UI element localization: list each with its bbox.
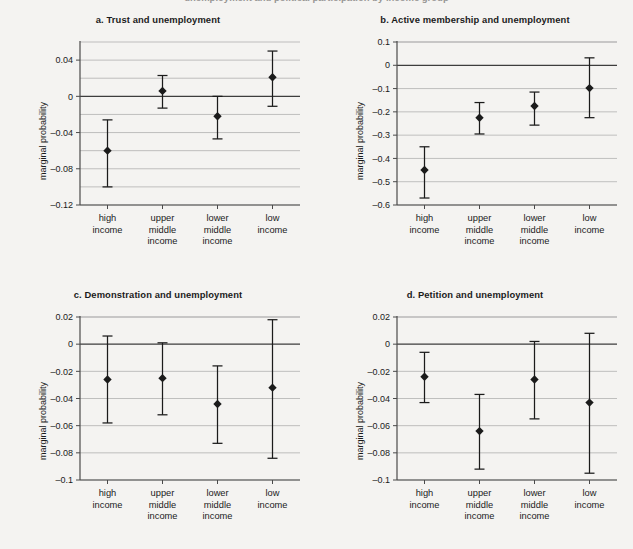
x-category-label: income bbox=[465, 511, 495, 521]
x-category-label: middle bbox=[521, 500, 548, 510]
data-point-group bbox=[213, 366, 223, 443]
data-marker-diamond bbox=[103, 146, 111, 154]
x-category-label: middle bbox=[521, 225, 548, 235]
y-tick-label: 0.04 bbox=[55, 55, 73, 65]
y-tick-label: –0.6 bbox=[372, 200, 390, 210]
x-category-label: income bbox=[203, 236, 233, 246]
x-category-label: income bbox=[410, 225, 440, 235]
y-tick-label: –0.4 bbox=[372, 154, 390, 164]
y-tick-label: 0 bbox=[385, 339, 390, 349]
data-marker-diamond bbox=[420, 373, 428, 381]
y-tick-label: –0.04 bbox=[50, 128, 73, 138]
y-tick-label: –0.02 bbox=[50, 367, 73, 377]
data-marker-diamond bbox=[158, 374, 166, 382]
data-point-group bbox=[268, 320, 278, 459]
panel-b: b. Active membership and unemployment ma… bbox=[317, 0, 633, 274]
data-marker-diamond bbox=[530, 102, 538, 110]
figure-root: unemployment and political participation… bbox=[0, 0, 633, 549]
data-point-group bbox=[475, 103, 485, 134]
x-category-label: low bbox=[583, 488, 597, 498]
y-tick-label: –0.02 bbox=[367, 367, 390, 377]
data-point-group bbox=[103, 120, 113, 187]
data-point-group bbox=[420, 147, 430, 198]
x-category-label: low bbox=[266, 213, 280, 223]
y-tick-label: –0.08 bbox=[50, 164, 73, 174]
x-category-label: income bbox=[465, 236, 495, 246]
x-category-label: income bbox=[258, 225, 288, 235]
x-category-label: low bbox=[266, 488, 280, 498]
x-category-label: income bbox=[520, 511, 550, 521]
y-tick-label: 0 bbox=[68, 339, 73, 349]
y-tick-label: 0.1 bbox=[377, 37, 390, 47]
x-category-label: income bbox=[410, 500, 440, 510]
panel-d: d. Petition and unemployment marginal pr… bbox=[317, 275, 633, 549]
data-point-group bbox=[585, 333, 595, 473]
y-tick-label: –0.06 bbox=[367, 421, 390, 431]
y-tick-label: –0.04 bbox=[367, 394, 390, 404]
y-tick-label: –0.1 bbox=[372, 84, 390, 94]
y-tick-label: –0.2 bbox=[372, 107, 390, 117]
data-point-group bbox=[158, 343, 168, 415]
data-point-group bbox=[268, 51, 278, 106]
x-category-label: income bbox=[203, 511, 233, 521]
x-category-label: income bbox=[520, 236, 550, 246]
y-tick-label: –0.06 bbox=[50, 421, 73, 431]
y-tick-label: 0 bbox=[68, 92, 73, 102]
y-tick-label: –0.1 bbox=[372, 475, 390, 485]
x-category-label: income bbox=[575, 225, 605, 235]
x-category-label: high bbox=[416, 213, 434, 223]
x-category-label: middle bbox=[204, 500, 231, 510]
x-category-label: high bbox=[99, 213, 117, 223]
x-category-label: upper bbox=[151, 213, 175, 223]
data-point-group bbox=[585, 58, 595, 118]
data-point-group bbox=[530, 92, 540, 125]
x-category-label: high bbox=[416, 488, 434, 498]
x-category-label: upper bbox=[468, 213, 492, 223]
y-tick-label: –0.3 bbox=[372, 130, 390, 140]
x-category-label: low bbox=[583, 213, 597, 223]
data-point-group bbox=[158, 76, 168, 109]
x-category-label: income bbox=[258, 500, 288, 510]
data-marker-diamond bbox=[585, 84, 593, 92]
panel-d-plot: 0.020–0.02–0.04–0.06–0.08–0.1highincomeu… bbox=[317, 275, 633, 549]
x-category-label: income bbox=[93, 500, 123, 510]
y-tick-label: 0.02 bbox=[372, 312, 390, 322]
x-category-label: income bbox=[148, 511, 178, 521]
data-marker-diamond bbox=[475, 113, 483, 121]
x-category-label: middle bbox=[466, 225, 493, 235]
x-category-label: income bbox=[575, 500, 605, 510]
data-marker-diamond bbox=[213, 112, 221, 120]
data-point-group bbox=[475, 394, 485, 469]
data-marker-diamond bbox=[268, 73, 276, 81]
x-category-label: upper bbox=[151, 488, 175, 498]
data-point-group bbox=[420, 352, 430, 402]
y-tick-label: –0.04 bbox=[50, 394, 73, 404]
data-marker-diamond bbox=[585, 398, 593, 406]
data-marker-diamond bbox=[213, 400, 221, 408]
panel-a-plot: 0.040–0.04–0.08–0.12highincomeuppermiddl… bbox=[0, 0, 316, 274]
panel-a: a. Trust and unemployment marginal proba… bbox=[0, 0, 316, 274]
y-tick-label: –0.08 bbox=[50, 448, 73, 458]
data-marker-diamond bbox=[103, 375, 111, 383]
panel-c: c. Demonstration and unemployment margin… bbox=[0, 275, 316, 549]
x-category-label: middle bbox=[466, 500, 493, 510]
panel-b-plot: 0.10–0.1–0.2–0.3–0.4–0.5–0.6highincomeup… bbox=[317, 0, 633, 274]
y-tick-label: –0.12 bbox=[50, 200, 73, 210]
x-category-label: middle bbox=[149, 500, 176, 510]
y-tick-label: –0.5 bbox=[372, 177, 390, 187]
data-marker-diamond bbox=[158, 87, 166, 95]
x-category-label: income bbox=[93, 225, 123, 235]
data-point-group bbox=[103, 336, 113, 423]
y-tick-label: 0 bbox=[385, 60, 390, 70]
panel-c-plot: 0.020–0.02–0.04–0.06–0.08–0.1highincomeu… bbox=[0, 275, 316, 549]
data-marker-diamond bbox=[268, 383, 276, 391]
x-category-label: lower bbox=[523, 488, 545, 498]
y-tick-label: –0.08 bbox=[367, 448, 390, 458]
x-category-label: lower bbox=[206, 213, 228, 223]
y-tick-label: 0.02 bbox=[55, 312, 73, 322]
x-category-label: middle bbox=[204, 225, 231, 235]
x-category-label: middle bbox=[149, 225, 176, 235]
x-category-label: income bbox=[148, 236, 178, 246]
x-category-label: lower bbox=[206, 488, 228, 498]
data-marker-diamond bbox=[530, 375, 538, 383]
